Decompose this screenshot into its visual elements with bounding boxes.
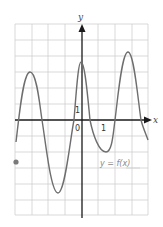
bullet-marker — [13, 159, 18, 164]
y-axis-arrow-icon — [79, 24, 86, 32]
y-axis-label: y — [77, 12, 84, 22]
origin-label: 0 — [75, 124, 80, 133]
y-tick-label-1: 1 — [75, 106, 80, 115]
x-tick-label-1: 1 — [101, 124, 106, 133]
function-label: y = f(x) — [99, 159, 130, 168]
x-axis-label: x — [153, 115, 158, 125]
graph-figure: y x 0 1 1 y = f(x) — [0, 0, 163, 227]
